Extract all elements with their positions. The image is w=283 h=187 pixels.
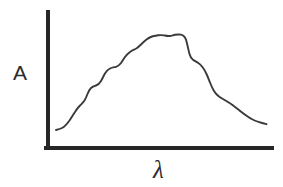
x-axis-label: λ xyxy=(153,157,164,182)
y-axis-label: A xyxy=(13,62,27,83)
absorption-spectrum-figure: A λ xyxy=(0,0,283,187)
absorption-curve xyxy=(56,34,267,130)
spectrum-plot-canvas xyxy=(0,0,283,187)
